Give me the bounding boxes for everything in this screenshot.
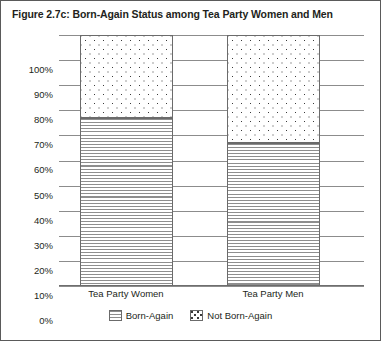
bar-segment-not-born-again[interactable] [80,35,173,118]
x-axis-category-label: Tea Party Women [46,288,206,299]
y-axis-tick-label: 70% [7,139,53,150]
y-axis-tick-label: 20% [7,264,53,275]
y-axis-tick-label: 100% [7,64,53,75]
legend-item[interactable]: Not Born-Again [190,310,272,321]
gridline [59,286,364,287]
legend-item[interactable]: Born-Again [109,310,174,321]
legend-swatch-icon [190,310,203,321]
bar-segment-born-again[interactable] [227,143,320,286]
chart-legend: Born-AgainNot Born-Again [1,310,380,321]
stacked-bar[interactable] [227,35,320,286]
y-axis-tick-label: 30% [7,239,53,250]
stacked-bar[interactable] [80,35,173,286]
page-title: Figure 2.7c: Born-Again Status among Tea… [12,8,333,20]
y-axis-tick-label: 80% [7,114,53,125]
y-axis-tick-label: 50% [7,189,53,200]
y-axis-tick-label: 60% [7,164,53,175]
y-axis-labels: 100%90%80%70%60%50%40%30%20%10%0% [1,35,53,286]
x-axis-category-label: Tea Party Men [193,288,353,299]
legend-label: Born-Again [126,310,174,321]
legend-label: Not Born-Again [207,310,272,321]
plot-area: Tea Party WomenTea Party Men [59,35,364,286]
y-axis-tick-label: 90% [7,89,53,100]
y-axis-tick-label: 40% [7,214,53,225]
bar-segment-born-again[interactable] [80,118,173,286]
chart-figure: Figure 2.7c: Born-Again Status among Tea… [0,0,381,341]
bar-segment-not-born-again[interactable] [227,35,320,143]
legend-swatch-icon [109,310,122,321]
